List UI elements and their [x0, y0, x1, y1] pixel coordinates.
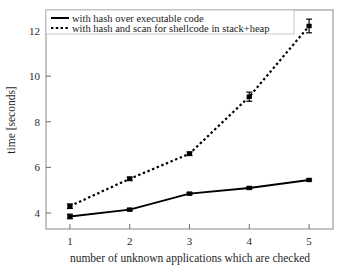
x-tick-label: 4: [247, 235, 253, 247]
legend-label-1: with hash and scan for shellcode in stac…: [72, 23, 270, 34]
y-axis-title: time [seconds]: [5, 86, 17, 153]
y-tick-label: 6: [35, 161, 41, 173]
x-axis-title: number of unknown applications which are…: [70, 252, 310, 265]
data-point-marker: [127, 207, 132, 211]
y-tick-label: 4: [35, 207, 41, 219]
x-tick-label: 2: [127, 235, 133, 247]
y-tick-label: 12: [29, 25, 40, 37]
chart-figure: 4681012 12345 time [seconds] number of u…: [0, 0, 342, 269]
x-tick-label: 1: [67, 235, 73, 247]
x-tick-label: 3: [187, 235, 193, 247]
data-point-marker: [67, 214, 72, 218]
data-point-marker: [187, 152, 192, 156]
data-point-marker: [306, 24, 311, 28]
chart-legend: with hash over executable code with hash…: [46, 10, 294, 34]
data-point-marker: [67, 204, 72, 208]
data-point-marker: [247, 186, 252, 190]
line-chart: 4681012 12345 time [seconds] number of u…: [0, 0, 342, 269]
data-point-marker: [187, 191, 192, 195]
y-tick-label: 8: [35, 116, 41, 128]
data-point-marker: [306, 178, 311, 182]
data-point-marker: [127, 177, 132, 181]
data-point-marker: [247, 94, 252, 98]
x-tick-label: 5: [306, 235, 312, 247]
y-tick-label: 10: [29, 70, 41, 82]
